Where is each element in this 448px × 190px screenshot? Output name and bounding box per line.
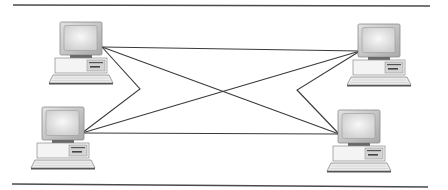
computer-bottom-left-icon (31, 107, 95, 170)
computer-bottom-right-icon (327, 110, 391, 173)
link-top-left-to-top-right (102, 47, 360, 51)
computer-top-right-icon (347, 24, 411, 87)
computer-top-left-icon (49, 22, 113, 85)
nodes (31, 22, 411, 173)
link-bottom-left-to-bottom-right (82, 133, 339, 134)
top-rule (13, 5, 430, 6)
bottom-rule (12, 184, 428, 187)
network-diagram (0, 0, 448, 190)
link-bottom-left-to-top-right (82, 51, 360, 133)
network-links (82, 47, 360, 134)
